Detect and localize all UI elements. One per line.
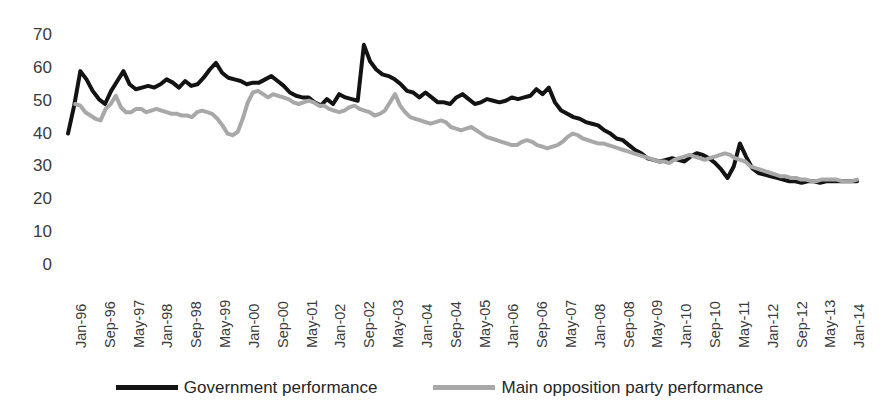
- legend-entry[interactable]: Main opposition party performance: [433, 379, 763, 396]
- line-chart: 010203040506070 Jan-96Sep-96May-97Jan-98…: [0, 0, 879, 417]
- chart-legend: Government performanceMain opposition pa…: [0, 379, 879, 396]
- legend-entry[interactable]: Government performance: [116, 379, 378, 396]
- legend-swatch-icon: [433, 385, 495, 390]
- series-group: [68, 45, 857, 183]
- plot-area: [0, 0, 879, 417]
- legend-label: Main opposition party performance: [501, 379, 763, 396]
- series-line-2: [75, 91, 857, 181]
- legend-swatch-icon: [116, 385, 178, 390]
- legend-label: Government performance: [184, 379, 378, 396]
